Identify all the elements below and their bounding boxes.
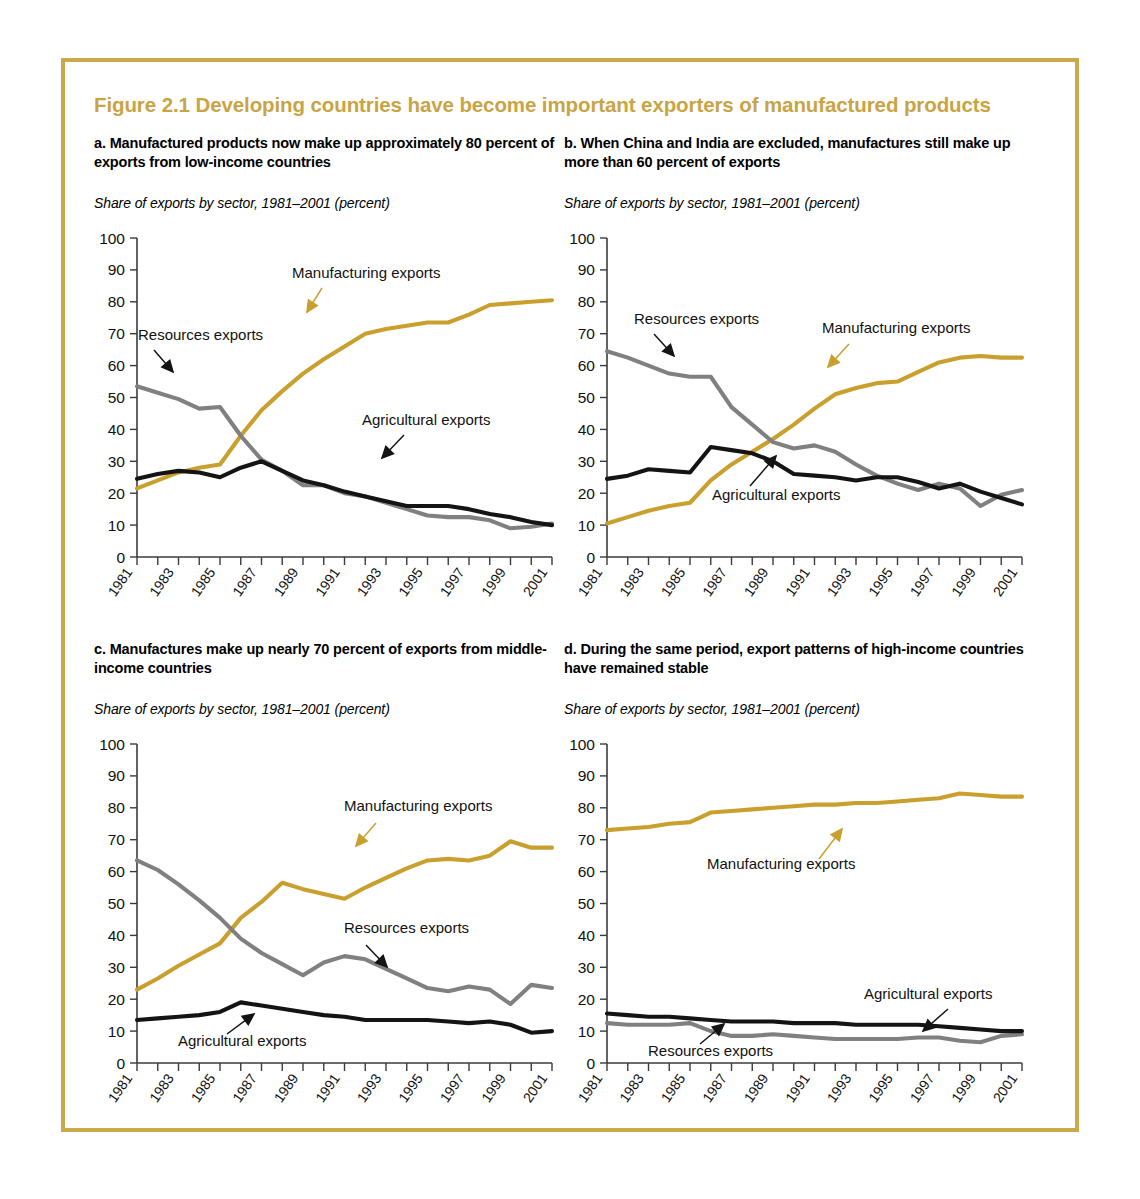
y-axis-tick-label: 20 bbox=[578, 485, 596, 502]
x-axis-tick-label: 1981 bbox=[574, 564, 605, 599]
y-axis-tick-label: 10 bbox=[108, 517, 126, 534]
y-axis-tick-label: 0 bbox=[586, 549, 595, 566]
y-axis-tick-label: 80 bbox=[578, 293, 596, 310]
y-axis-tick-label: 40 bbox=[578, 927, 596, 944]
resources-label: Resources exports bbox=[344, 919, 469, 936]
manufacturing-arrowhead bbox=[307, 300, 317, 312]
x-axis-tick-label: 1993 bbox=[823, 1070, 854, 1105]
y-axis-tick-label: 80 bbox=[578, 799, 596, 816]
x-axis-tick-label: 1981 bbox=[104, 1070, 135, 1105]
x-axis-tick-label: 1993 bbox=[353, 564, 384, 599]
agricultural-arrowhead bbox=[242, 1014, 254, 1025]
x-axis-tick-label: 1995 bbox=[395, 564, 426, 599]
series-agricultural bbox=[137, 1002, 552, 1032]
panel-a-subtitle: Share of exports by sector, 1981–2001 (p… bbox=[94, 194, 564, 212]
x-axis-tick-label: 1991 bbox=[782, 1070, 813, 1105]
y-axis-tick-label: 50 bbox=[108, 389, 126, 406]
panel-c: c. Manufactures make up nearly 70 percen… bbox=[94, 640, 564, 1116]
y-axis-tick-label: 90 bbox=[578, 767, 596, 784]
panel-a-chart: 0102030405060708090100198119831985198719… bbox=[94, 220, 564, 610]
x-axis-tick-label: 1985 bbox=[187, 1070, 218, 1105]
y-axis-tick-label: 20 bbox=[108, 485, 126, 502]
y-axis-tick-label: 20 bbox=[108, 991, 126, 1008]
panel-d-subtitle: Share of exports by sector, 1981–2001 (p… bbox=[564, 700, 1034, 718]
agricultural-label: Agricultural exports bbox=[712, 486, 840, 503]
x-axis-tick-label: 1983 bbox=[616, 1070, 647, 1105]
manufacturing-label: Manufacturing exports bbox=[344, 797, 492, 814]
manufacturing-label: Manufacturing exports bbox=[822, 319, 970, 336]
y-axis-tick-label: 80 bbox=[108, 799, 126, 816]
y-axis-tick-label: 10 bbox=[578, 1023, 596, 1040]
panel-c-title: c. Manufactures make up nearly 70 percen… bbox=[94, 640, 564, 678]
x-axis-tick-label: 1999 bbox=[948, 564, 979, 599]
resources-label: Resources exports bbox=[634, 310, 759, 327]
panel-c-chart: 0102030405060708090100198119831985198719… bbox=[94, 726, 564, 1116]
y-axis-tick-label: 10 bbox=[578, 517, 596, 534]
x-axis-tick-label: 1989 bbox=[270, 1070, 301, 1105]
agricultural-label: Agricultural exports bbox=[864, 985, 992, 1002]
panel-c-subtitle: Share of exports by sector, 1981–2001 (p… bbox=[94, 700, 564, 718]
x-axis-tick-label: 2001 bbox=[989, 1070, 1020, 1105]
x-axis-tick-label: 1999 bbox=[478, 1070, 509, 1105]
y-axis-tick-label: 40 bbox=[578, 421, 596, 438]
y-axis-tick-label: 60 bbox=[578, 863, 596, 880]
x-axis-tick-label: 1983 bbox=[146, 1070, 177, 1105]
y-axis-tick-label: 100 bbox=[99, 736, 125, 753]
panel-a-title: a. Manufactured products now make up app… bbox=[94, 134, 564, 172]
panel-d: d. During the same period, export patter… bbox=[564, 640, 1034, 1116]
y-axis-tick-label: 30 bbox=[108, 453, 126, 470]
manufacturing-label: Manufacturing exports bbox=[707, 855, 855, 872]
x-axis-tick-label: 1985 bbox=[187, 564, 218, 599]
y-axis-tick-label: 30 bbox=[578, 959, 596, 976]
y-axis-tick-label: 90 bbox=[108, 261, 126, 278]
resources-label: Resources exports bbox=[138, 326, 263, 343]
y-axis-tick-label: 0 bbox=[116, 1055, 125, 1072]
figure-frame: Figure 2.1 Developing countries have bec… bbox=[61, 58, 1079, 1132]
x-axis-tick-label: 1985 bbox=[657, 1070, 688, 1105]
x-axis-tick-label: 1993 bbox=[353, 1070, 384, 1105]
panel-b-plot: 0102030405060708090100198119831985198719… bbox=[564, 220, 1034, 610]
x-axis-tick-label: 2001 bbox=[989, 564, 1020, 599]
y-axis-tick-label: 40 bbox=[108, 421, 126, 438]
manufacturing-arrowhead bbox=[831, 829, 842, 841]
y-axis-tick-label: 60 bbox=[578, 357, 596, 374]
panel-b: b. When China and India are excluded, ma… bbox=[564, 134, 1034, 610]
panel-a-plot: 0102030405060708090100198119831985198719… bbox=[94, 220, 564, 610]
panel-c-plot: 0102030405060708090100198119831985198719… bbox=[94, 726, 564, 1116]
y-axis-tick-label: 70 bbox=[108, 831, 126, 848]
x-axis-tick-label: 1997 bbox=[436, 564, 467, 599]
x-axis-tick-label: 1991 bbox=[312, 564, 343, 599]
series-agricultural bbox=[607, 1014, 1022, 1032]
y-axis-tick-label: 50 bbox=[578, 895, 596, 912]
y-axis-tick-label: 0 bbox=[586, 1055, 595, 1072]
x-axis-tick-label: 1995 bbox=[395, 1070, 426, 1105]
y-axis-tick-label: 0 bbox=[116, 549, 125, 566]
y-axis-tick-label: 50 bbox=[108, 895, 126, 912]
x-axis-tick-label: 2001 bbox=[519, 1070, 550, 1105]
x-axis-tick-label: 1997 bbox=[436, 1070, 467, 1105]
y-axis-tick-label: 100 bbox=[569, 230, 595, 247]
x-axis-tick-label: 1983 bbox=[146, 564, 177, 599]
x-axis-tick-label: 1991 bbox=[782, 564, 813, 599]
y-axis-tick-label: 70 bbox=[108, 325, 126, 342]
x-axis-tick-label: 1981 bbox=[104, 564, 135, 599]
y-axis-tick-label: 60 bbox=[108, 357, 126, 374]
x-axis-tick-label: 1989 bbox=[740, 1070, 771, 1105]
manufacturing-label: Manufacturing exports bbox=[292, 264, 440, 281]
panel-b-subtitle: Share of exports by sector, 1981–2001 (p… bbox=[564, 194, 1034, 212]
x-axis-tick-label: 1987 bbox=[229, 564, 260, 599]
agricultural-label: Agricultural exports bbox=[178, 1032, 306, 1049]
y-axis-tick-label: 20 bbox=[578, 991, 596, 1008]
x-axis-tick-label: 1987 bbox=[699, 1070, 730, 1105]
resources-label: Resources exports bbox=[648, 1042, 773, 1059]
x-axis-tick-label: 1987 bbox=[699, 564, 730, 599]
y-axis-tick-label: 70 bbox=[578, 831, 596, 848]
x-axis-tick-label: 1999 bbox=[478, 564, 509, 599]
x-axis-tick-label: 1993 bbox=[823, 564, 854, 599]
y-axis-tick-label: 60 bbox=[108, 863, 126, 880]
panel-b-title: b. When China and India are excluded, ma… bbox=[564, 134, 1034, 172]
series-manufacturing bbox=[137, 841, 552, 989]
series-resources bbox=[137, 386, 552, 528]
panel-d-chart: 0102030405060708090100198119831985198719… bbox=[564, 726, 1034, 1116]
x-axis-tick-label: 1995 bbox=[865, 564, 896, 599]
